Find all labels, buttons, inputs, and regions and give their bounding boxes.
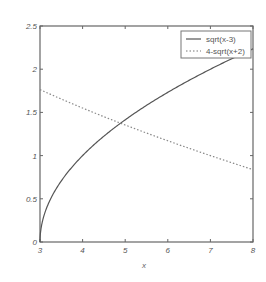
line-chart: 34567800.511.522.5 sqrt(x-3) 4-sqrt(x+2)… bbox=[0, 0, 266, 282]
x-tick-label: 3 bbox=[38, 246, 43, 255]
y-tick-label: 1 bbox=[33, 152, 37, 161]
x-axis-label: x bbox=[141, 261, 147, 270]
y-tick-label: 0 bbox=[33, 238, 38, 247]
x-tick-label: 6 bbox=[166, 246, 171, 255]
x-tick-label: 4 bbox=[80, 246, 85, 255]
legend: sqrt(x-3) 4-sqrt(x+2) bbox=[181, 31, 251, 58]
series-line-2 bbox=[40, 90, 253, 170]
x-tick-label: 7 bbox=[208, 246, 213, 255]
y-tick-label: 1.5 bbox=[26, 108, 38, 117]
y-tick-label: 0.5 bbox=[26, 195, 38, 204]
x-tick-label: 5 bbox=[123, 246, 128, 255]
y-tick-label: 2.5 bbox=[25, 22, 38, 31]
series-line-1 bbox=[40, 49, 253, 242]
legend-label-2: 4-sqrt(x+2) bbox=[206, 47, 245, 56]
x-tick-label: 8 bbox=[251, 246, 256, 255]
y-tick-label: 2 bbox=[32, 65, 38, 74]
data-series bbox=[40, 49, 253, 242]
legend-label-1: sqrt(x-3) bbox=[206, 35, 236, 44]
